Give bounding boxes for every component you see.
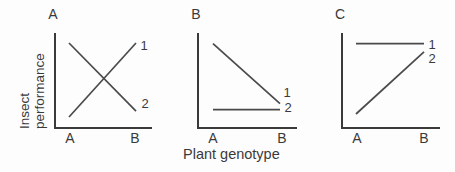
panel-a-tick-genotype-a: A [63,131,77,146]
y-axis-label-line1: Insect [17,53,32,129]
panel-c-title: C [333,7,347,22]
panel-a-title: A [46,7,60,22]
y-axis-label: Insect performance [17,53,47,129]
panel-a-line-1-label: 1 [138,39,150,53]
panel-c-line-2 [356,52,424,114]
panel-b-line-1 [213,44,280,104]
figure-insect-performance-vs-plant-genotype: A B C Insect performance Plant genotype … [0,0,455,172]
panel-c-tick-genotype-b: B [417,131,431,146]
panel-c-tick-genotype-a: A [350,131,364,146]
y-axis-label-line2: performance [32,53,47,129]
panel-b-tick-genotype-a: A [206,131,220,146]
panel-b-line-1-label: 1 [281,86,293,100]
panel-a-line-2-label: 2 [139,97,151,111]
x-axis-label: Plant genotype [183,146,280,162]
panel-b-title: B [189,7,203,22]
panel-b-tick-genotype-b: B [275,131,289,146]
panel-c-line-2-label: 2 [426,52,438,66]
panel-c-line-1-label: 1 [426,38,438,52]
panel-b-line-2-label: 2 [282,101,294,115]
panel-a-tick-genotype-b: B [128,131,142,146]
